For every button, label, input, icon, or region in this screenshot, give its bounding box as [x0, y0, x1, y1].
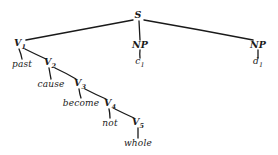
node-subscript: 3 [82, 83, 87, 91]
tree-node-S: S [134, 10, 141, 20]
tree-node-V1: V1 [14, 38, 26, 50]
tree-node-V5: V5 [132, 117, 144, 129]
tree-node-become: become [63, 99, 100, 108]
tree-edge-S-to-NPd [144, 20, 253, 40]
node-label: not [102, 118, 117, 128]
syntax-tree-figure: SV1NPNPpastV2c1d1causeV3becomeV4notV5who… [0, 0, 278, 155]
node-subscript: 2 [52, 62, 57, 70]
node-label: S [134, 9, 141, 20]
tree-edge-V1-to-V2 [25, 49, 46, 59]
node-label: V [44, 56, 52, 67]
node-label: V [104, 97, 112, 108]
node-subscript: 5 [140, 122, 145, 130]
tree-node-c1: c1 [135, 57, 144, 68]
tree-node-whole: whole [124, 139, 152, 148]
node-label: V [132, 116, 140, 127]
node-label: V [74, 77, 82, 88]
tree-node-V2: V2 [44, 57, 56, 69]
node-label: NP [132, 39, 148, 50]
tree-node-not: not [102, 119, 117, 128]
node-label: whole [124, 138, 152, 148]
tree-edge-S-to-NPc [139, 21, 140, 40]
tree-node-d1: d1 [253, 57, 263, 68]
tree-node-cause: cause [37, 80, 64, 89]
node-label: NP [250, 39, 266, 50]
tree-edges [0, 0, 278, 155]
tree-edge-V2-to-V3 [55, 68, 76, 79]
tree-node-NPd: NP [250, 40, 266, 50]
node-subscript: 1 [259, 61, 263, 69]
node-label: V [14, 37, 22, 48]
tree-node-past: past [12, 60, 32, 69]
node-subscript: 1 [22, 43, 27, 51]
tree-node-V4: V4 [104, 98, 116, 110]
node-label: become [63, 98, 100, 108]
node-subscript: 1 [141, 61, 145, 69]
tree-edge-S-to-V1 [26, 20, 133, 40]
tree-node-V3: V3 [74, 78, 86, 90]
tree-node-NPc: NP [132, 40, 148, 50]
node-label: past [12, 59, 32, 69]
node-subscript: 4 [112, 103, 117, 111]
node-label: cause [37, 79, 64, 89]
